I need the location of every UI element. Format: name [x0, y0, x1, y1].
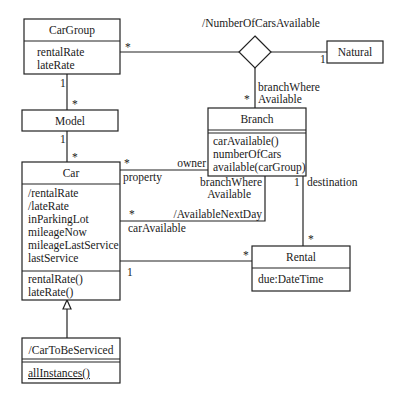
branch-ternary-multiplicity: * [244, 93, 250, 105]
owner-role: owner [177, 157, 206, 169]
attribute: lateRate [37, 59, 75, 71]
attribute: /lateRate [28, 200, 69, 212]
class-cargroup[interactable]: CarGroup rentalRate lateRate [24, 19, 120, 74]
operation: numberOfCars [213, 148, 282, 160]
class-name: CarGroup [49, 24, 95, 37]
cargroup-model-mult-star: * [72, 98, 78, 110]
ternary-association-diamond-icon [239, 36, 271, 68]
generalization-arrowhead-icon [63, 300, 71, 309]
available-next-day-name: /AvailableNextDay [173, 208, 262, 221]
operation: lateRate() [28, 286, 74, 299]
class-car[interactable]: Car /rentalRate /lateRate inParkingLot m… [22, 162, 120, 300]
operation: available(carGroup) [213, 161, 306, 174]
attribute: /rentalRate [28, 187, 78, 199]
car-owner-multiplicity: * [124, 157, 130, 169]
class-rental[interactable]: Rental due:DateTime [252, 246, 350, 291]
class-name: Car [63, 167, 80, 179]
class-name: Rental [286, 251, 316, 263]
attribute: due:DateTime [258, 273, 323, 285]
class-name: Branch [240, 113, 273, 125]
operation: allInstances() [28, 367, 90, 380]
next-day-branch-role-line2: Available [207, 188, 251, 200]
cargroup-ternary-multiplicity: * [125, 41, 131, 53]
model-car-mult-star: * [72, 151, 78, 163]
attribute: rentalRate [37, 46, 84, 58]
natural-multiplicity: 1 [320, 53, 326, 65]
operation: rentalRate() [28, 273, 83, 286]
branch-role-line2: Available [258, 93, 302, 105]
class-natural[interactable]: Natural [327, 41, 383, 63]
branch-rental-mult-star: * [308, 233, 314, 245]
class-cartobeserviced[interactable]: /CarToBeServiced allInstances() [22, 338, 120, 383]
branch-role-line1: branchWhere [258, 81, 320, 93]
car-available-role: carAvailable [128, 222, 186, 234]
model-car-mult-1: 1 [60, 133, 66, 145]
attribute: mileageLastService [28, 239, 119, 252]
property-role: property [123, 171, 162, 184]
attribute: inParkingLot [28, 213, 89, 226]
class-model[interactable]: Model [22, 110, 118, 131]
next-day-car-multiplicity: * [129, 208, 135, 220]
uml-class-diagram: CarGroup rentalRate lateRate Model Car /… [0, 0, 402, 401]
ternary-association-name: /NumberOfCarsAvailable [202, 17, 320, 29]
attribute: lastService [28, 252, 78, 264]
car-rental-mult-star: * [243, 249, 249, 261]
car-rental-mult-1: 1 [127, 266, 133, 278]
class-name: Natural [338, 46, 372, 58]
next-day-branch-role-line1: branchWhere [200, 176, 262, 188]
branch-rental-mult-1: 1 [294, 176, 300, 188]
attribute: mileageNow [28, 226, 87, 239]
class-name: /CarToBeServiced [29, 344, 114, 356]
class-branch[interactable]: Branch carAvailable() numberOfCars avail… [208, 108, 306, 176]
cargroup-model-mult-1: 1 [60, 77, 66, 89]
operation: carAvailable() [213, 135, 279, 148]
class-name: Model [55, 115, 85, 127]
destination-role: destination [307, 176, 358, 188]
